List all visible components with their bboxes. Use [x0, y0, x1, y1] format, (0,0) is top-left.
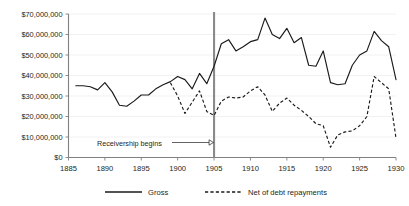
- annotation-label: Receivership begins: [97, 139, 162, 148]
- chart-container: $70,000,000$60,000,000$50,000,000$40,000…: [0, 0, 409, 206]
- x-tick-label: 1915: [278, 164, 295, 173]
- legend-label-net-of-debt-repayments: Net of debt repayments: [248, 188, 327, 197]
- legend: Gross Net of debt repayments: [105, 188, 327, 197]
- x-tick-label: 1895: [133, 164, 150, 173]
- annotation-receivership: Receivership begins: [97, 139, 213, 148]
- legend-label-gross: Gross: [148, 188, 168, 197]
- x-tick-label: 1885: [60, 164, 77, 173]
- x-tick-label: 1900: [169, 164, 186, 173]
- x-tick-label: 1905: [206, 164, 223, 173]
- x-tick-label: 1890: [96, 164, 113, 173]
- y-tick-label: $50,000,000: [21, 51, 62, 60]
- x-tick-label: 1925: [351, 164, 368, 173]
- y-tick-label: $20,000,000: [21, 112, 62, 121]
- x-tick-label: 1930: [388, 164, 405, 173]
- line-chart: $70,000,000$60,000,000$50,000,000$40,000…: [0, 0, 409, 206]
- y-tick-label: $70,000,000: [21, 10, 62, 19]
- series-line-gross: [76, 18, 396, 106]
- y-tick-label: $60,000,000: [21, 30, 62, 39]
- annotation-arrowhead: [209, 140, 213, 145]
- y-tick-label: $10,000,000: [21, 133, 62, 142]
- x-axis-labels: 1885189018951900190519101915192019251930: [60, 164, 404, 173]
- y-tick-label: $30,000,000: [21, 92, 62, 101]
- y-tick-label: $0: [54, 153, 62, 162]
- gridlines-group: [69, 14, 397, 137]
- y-tick-label: $40,000,000: [21, 71, 62, 80]
- x-tick-label: 1910: [242, 164, 259, 173]
- x-tick-label: 1920: [315, 164, 332, 173]
- y-axis-labels: $70,000,000$60,000,000$50,000,000$40,000…: [21, 10, 62, 163]
